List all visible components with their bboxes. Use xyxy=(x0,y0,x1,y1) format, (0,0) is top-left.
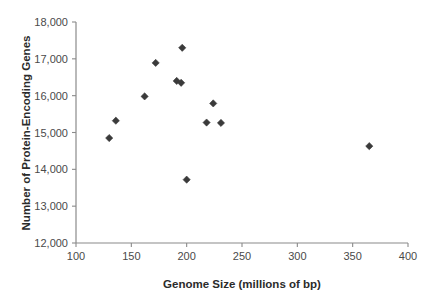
y-axis-title: Number of Protein-Encoding Genes xyxy=(20,36,32,231)
data-point-marker xyxy=(141,93,148,100)
y-tick-label: 13,000 xyxy=(34,200,68,212)
x-tick-label: 200 xyxy=(177,250,195,262)
scatter-chart: 12,00013,00014,00015,00016,00017,00018,0… xyxy=(0,0,438,298)
y-tick-label: 18,000 xyxy=(34,16,68,28)
data-point-marker xyxy=(203,119,210,126)
data-point-marker xyxy=(106,134,113,141)
x-axis-tick-labels: 100150200250300350400 xyxy=(67,250,417,262)
chart-canvas: 12,00013,00014,00015,00016,00017,00018,0… xyxy=(0,0,438,298)
y-tick-label: 14,000 xyxy=(34,163,68,175)
x-axis-group: 100150200250300350400 xyxy=(67,243,417,262)
data-point-marker xyxy=(366,143,373,150)
data-point-marker xyxy=(217,119,224,126)
x-tick-label: 100 xyxy=(67,250,85,262)
x-tick-label: 150 xyxy=(122,250,140,262)
x-axis-title: Genome Size (millions of bp) xyxy=(163,278,321,290)
y-tick-label: 16,000 xyxy=(34,90,68,102)
x-tick-label: 250 xyxy=(233,250,251,262)
y-axis-tick-labels: 12,00013,00014,00015,00016,00017,00018,0… xyxy=(34,16,68,249)
x-tick-label: 300 xyxy=(288,250,306,262)
y-tick-label: 12,000 xyxy=(34,237,68,249)
data-point-marker xyxy=(152,59,159,66)
data-point-series xyxy=(106,44,373,183)
x-axis-ticks xyxy=(76,243,408,247)
data-point-marker xyxy=(179,44,186,51)
y-tick-label: 17,000 xyxy=(34,53,68,65)
data-point-marker xyxy=(112,117,119,124)
y-axis-group: 12,00013,00014,00015,00016,00017,00018,0… xyxy=(34,16,76,249)
data-point-marker xyxy=(210,100,217,107)
y-tick-label: 15,000 xyxy=(34,127,68,139)
data-point-marker xyxy=(183,176,190,183)
x-tick-label: 400 xyxy=(399,250,417,262)
x-tick-label: 350 xyxy=(343,250,361,262)
